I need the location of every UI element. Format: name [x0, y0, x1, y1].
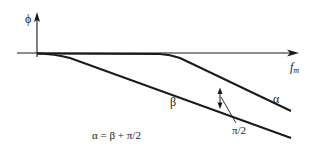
arrowhead-down	[218, 103, 223, 110]
beta-label: β	[170, 96, 176, 108]
y-axis	[34, 12, 40, 57]
x-axis-label: fm	[290, 61, 299, 75]
y-axis-label: ϕ	[25, 13, 31, 25]
phase-difference-arrow	[218, 88, 237, 124]
arrowhead-up	[218, 88, 223, 95]
alpha-label: α	[273, 93, 279, 105]
equation-label: α = β + π/2	[92, 130, 141, 141]
x-axis-label-subscript: m	[293, 66, 299, 75]
phase-diagram	[0, 0, 313, 149]
pi-half-leader-line	[221, 97, 236, 123]
alpha-curve	[37, 54, 291, 112]
beta-curve	[37, 54, 291, 139]
phase-difference-label: π/2	[232, 125, 246, 136]
